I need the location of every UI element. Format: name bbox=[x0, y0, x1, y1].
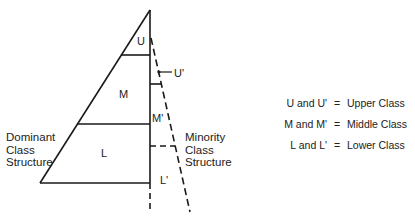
dominant-class-title: Dominant Class Structure bbox=[6, 131, 55, 169]
minority-hypotenuse bbox=[151, 38, 190, 212]
legend-row-upper: U and U' = Upper Class bbox=[262, 92, 407, 113]
label-m-prime: M' bbox=[152, 112, 163, 124]
legend-row-middle: M and M' = Middle Class bbox=[262, 113, 407, 134]
legend: U and U' = Upper Class M and M' = Middle… bbox=[262, 92, 407, 155]
label-u-prime: U' bbox=[174, 67, 184, 79]
label-l: L bbox=[101, 147, 107, 159]
minority-class-title: Minority Class Structure bbox=[185, 131, 232, 169]
label-u: U bbox=[137, 35, 145, 47]
label-m: M bbox=[119, 88, 128, 100]
legend-row-lower: L and L' = Lower Class bbox=[262, 134, 407, 155]
label-l-prime: L' bbox=[160, 174, 168, 186]
dominant-hypotenuse bbox=[40, 10, 150, 183]
u-prime-marker bbox=[157, 70, 160, 73]
